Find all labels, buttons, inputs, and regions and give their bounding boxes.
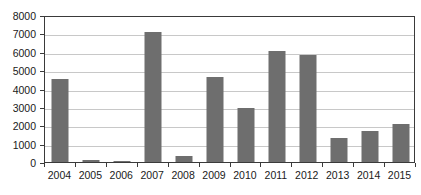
- bars-layer: [45, 17, 414, 162]
- bar[interactable]: [392, 124, 409, 162]
- y-tick-label: 5000: [0, 66, 36, 77]
- y-tick-mark: [40, 90, 44, 91]
- x-tick-label: 2006: [110, 170, 133, 181]
- x-tick-label: 2007: [141, 170, 164, 181]
- bar[interactable]: [114, 161, 131, 162]
- x-tick-label: 2011: [265, 170, 288, 181]
- y-tick-mark: [40, 126, 44, 127]
- bar[interactable]: [145, 32, 162, 162]
- bar-slot: [107, 17, 138, 162]
- x-tick-label: 2014: [357, 170, 380, 181]
- y-tick-label: 8000: [0, 11, 36, 22]
- bar[interactable]: [361, 131, 378, 162]
- bar[interactable]: [207, 77, 224, 162]
- x-tick-label: 2013: [326, 170, 349, 181]
- plot-area: [44, 16, 415, 163]
- x-tick-mark: [75, 163, 76, 167]
- x-tick-mark: [230, 163, 231, 167]
- bar-slot: [385, 17, 416, 162]
- y-tick-label: 2000: [0, 121, 36, 132]
- y-tick-label: 4000: [0, 85, 36, 96]
- bar[interactable]: [330, 138, 347, 162]
- bar-slot: [45, 17, 76, 162]
- x-tick-mark: [106, 163, 107, 167]
- x-tick-label: 2012: [295, 170, 318, 181]
- x-tick-mark: [168, 163, 169, 167]
- x-tick-label: 2015: [388, 170, 411, 181]
- bar[interactable]: [83, 160, 100, 162]
- bar-slot: [354, 17, 385, 162]
- bar-slot: [231, 17, 262, 162]
- x-tick-mark: [384, 163, 385, 167]
- y-tick-label: 7000: [0, 29, 36, 40]
- y-tick-label: 0: [0, 158, 36, 169]
- y-tick-mark: [40, 16, 44, 17]
- x-tick-label: 2010: [233, 170, 256, 181]
- y-tick-label: 1000: [0, 140, 36, 151]
- x-tick-label: 2008: [171, 170, 194, 181]
- x-tick-mark: [44, 163, 45, 167]
- x-tick-mark: [353, 163, 354, 167]
- bar-slot: [261, 17, 292, 162]
- bar-chart: 010002000300040005000600070008000 200420…: [0, 0, 421, 195]
- x-tick-mark: [291, 163, 292, 167]
- y-tick-label: 3000: [0, 103, 36, 114]
- x-tick-mark: [260, 163, 261, 167]
- bar[interactable]: [52, 79, 69, 162]
- x-tick-label: 2005: [79, 170, 102, 181]
- x-tick-label: 2009: [202, 170, 225, 181]
- x-tick-mark: [322, 163, 323, 167]
- bar-slot: [292, 17, 323, 162]
- bar-slot: [169, 17, 200, 162]
- y-tick-mark: [40, 71, 44, 72]
- bar[interactable]: [299, 55, 316, 162]
- x-tick-mark: [199, 163, 200, 167]
- bar[interactable]: [176, 156, 193, 162]
- bar-slot: [76, 17, 107, 162]
- x-tick-label: 2004: [48, 170, 71, 181]
- y-tick-mark: [40, 108, 44, 109]
- y-tick-label: 6000: [0, 48, 36, 59]
- x-tick-mark: [415, 163, 416, 167]
- bar-slot: [323, 17, 354, 162]
- y-tick-mark: [40, 53, 44, 54]
- bar[interactable]: [268, 51, 285, 162]
- bar-slot: [200, 17, 231, 162]
- x-tick-mark: [137, 163, 138, 167]
- y-tick-mark: [40, 145, 44, 146]
- bar-slot: [138, 17, 169, 162]
- bar[interactable]: [237, 108, 254, 162]
- y-tick-mark: [40, 34, 44, 35]
